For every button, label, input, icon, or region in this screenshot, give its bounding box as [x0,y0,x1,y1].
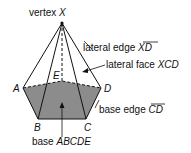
base-edge-annotation: base edge CD [99,104,163,115]
point-label-e: E [53,70,60,81]
point-label-a: A [12,83,20,94]
point-label-b: B [34,122,41,133]
lateral-face-annotation: lateral face XCD [106,59,179,70]
base-annotation: base ABCDE [32,136,91,147]
lateral-edge-annotation: lateral edge XD [83,42,152,53]
vertex-dot [60,21,63,24]
pyramid-diagram: A B C D E vertex X lateral edge XD later… [0,0,191,153]
lateral-edge-xd [62,23,101,88]
point-label-d: D [104,83,111,94]
point-label-c: C [84,122,92,133]
vertex-annotation: vertex X [29,7,66,18]
arrow-head-lateral-face [82,68,88,73]
